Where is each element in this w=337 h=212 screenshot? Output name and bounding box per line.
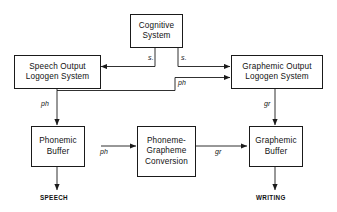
terminal-label-writing: WRITING: [256, 194, 286, 201]
node-label-line: Grapheme: [147, 146, 187, 157]
node-label-line: Phonemic: [39, 136, 77, 147]
edge-label-ph-to-buffer: ph: [41, 100, 49, 107]
node-phonemic-buffer[interactable]: Phonemic Buffer: [31, 126, 85, 167]
connector-cognitive-to-speech: [101, 48, 155, 67]
edge-label-gr-vertical: gr: [264, 100, 271, 107]
node-label-line: Logogen System: [245, 72, 309, 83]
node-label-line: Cognitive: [139, 21, 174, 32]
node-label-line: System: [142, 31, 170, 42]
edge-label-s-left: s.: [148, 54, 154, 61]
edge-label-ph-conversion: ph: [100, 148, 108, 155]
node-label-line: Conversion: [145, 157, 188, 168]
edge-label-s-right: s.: [181, 54, 187, 61]
node-graphemic-output-logogen-system[interactable]: Graphemic Output Logogen System: [231, 55, 323, 89]
node-phoneme-grapheme-conversion[interactable]: Phoneme- Grapheme Conversion: [137, 126, 196, 177]
node-label-line: Buffer: [47, 147, 70, 158]
edge-label-gr-conversion: gr: [215, 148, 222, 155]
diagram-canvas: Cognitive System Speech Output Logogen S…: [0, 0, 337, 212]
node-label-line: Buffer: [265, 147, 288, 158]
node-label-line: Phoneme-: [147, 136, 186, 147]
terminal-label-speech: SPEECH: [40, 194, 68, 201]
edge-label-ph-to-graphemic: ph: [178, 79, 186, 86]
node-speech-output-logogen-system[interactable]: Speech Output Logogen System: [14, 55, 101, 89]
node-label-line: Graphemic Output: [242, 62, 311, 73]
node-label-line: Logogen System: [26, 72, 90, 83]
node-label-line: Graphemic: [255, 136, 296, 147]
node-label-line: Speech Output: [29, 62, 86, 73]
node-cognitive-system[interactable]: Cognitive System: [130, 14, 183, 48]
node-graphemic-buffer[interactable]: Graphemic Buffer: [249, 126, 303, 167]
